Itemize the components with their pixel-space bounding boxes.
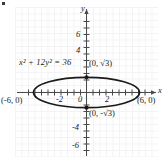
- vertex-bottom-label: (0, -√3): [89, 108, 115, 118]
- y-axis-label: y: [81, 3, 85, 13]
- equation-label: x² + 12y² = 36: [19, 57, 71, 67]
- y-tick-label-pos6: 6: [76, 29, 80, 39]
- x-tick-label-pos2: 2: [105, 94, 109, 104]
- y-tick-label-pos4: 4: [76, 45, 80, 55]
- y-tick-label-neg4: -4: [72, 122, 79, 132]
- x-tick-label-neg2: -2: [56, 94, 63, 104]
- vertex-top-label: (0, √3): [89, 58, 112, 68]
- x-tick-label-zero: 0: [78, 94, 82, 104]
- x-axis-label: x: [158, 85, 162, 95]
- y-tick-label-neg6: -6: [72, 140, 79, 150]
- vertex-left-label: (-6, 0): [1, 95, 22, 105]
- ellipse-plot: [0, 0, 168, 164]
- vertex-right-label: (6, 0): [137, 95, 155, 105]
- vertex-bottom-marker: [84, 106, 88, 110]
- figure-canvas: x² + 12y² = 36 y x -2 0 2 6 4 -4 -6 (-6,…: [0, 0, 168, 164]
- vertex-top-marker: [84, 75, 88, 79]
